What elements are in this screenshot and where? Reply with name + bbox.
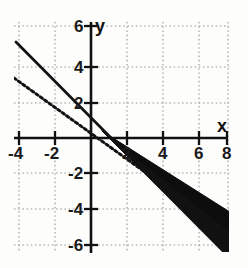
y-axis-label: y bbox=[95, 17, 105, 35]
x-tick-label-2: 2 bbox=[122, 145, 131, 162]
x-axis-label: x bbox=[217, 117, 227, 135]
y-tick-label--6: -6 bbox=[68, 237, 83, 254]
x-tick-label-8: 8 bbox=[222, 145, 231, 162]
x-tick-label-4: 4 bbox=[158, 145, 167, 162]
y-tick-label--4: -4 bbox=[68, 201, 83, 218]
coordinate-graph: y x -4 -2 2 4 6 8 6 4 2 -2 -4 -6 bbox=[0, 0, 248, 268]
x-tick-label-6: 6 bbox=[194, 145, 203, 162]
y-tick-label-6: 6 bbox=[74, 18, 83, 35]
y-tick-label-4: 4 bbox=[74, 59, 83, 76]
x-tick-label--2: -2 bbox=[44, 145, 59, 162]
plot-area bbox=[0, 0, 248, 268]
x-tick-label--4: -4 bbox=[8, 145, 23, 162]
y-tick-label-2: 2 bbox=[74, 95, 83, 112]
y-tick-label--2: -2 bbox=[68, 165, 83, 182]
